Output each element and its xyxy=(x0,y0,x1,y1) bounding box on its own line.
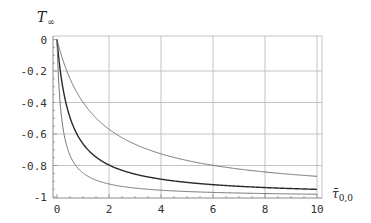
x-tick-label: 10 xyxy=(310,203,323,216)
y-tick-label: -0.8 xyxy=(21,160,48,173)
x-tick-label: 6 xyxy=(210,203,217,216)
x-tick-label: 0 xyxy=(54,203,61,216)
curve-middle xyxy=(57,40,317,190)
y-tick-label: -1 xyxy=(34,191,47,204)
curve-upper xyxy=(57,40,317,177)
data-curves xyxy=(57,40,317,195)
y-axis-label: T∞ xyxy=(37,9,55,27)
chart: 02468100-0.2-0.4-0.6-0.8-1 T∞ τ̄0,0 xyxy=(0,0,371,223)
x-tick-label: 2 xyxy=(106,203,113,216)
x-axis-label: τ̄0,0 xyxy=(332,187,353,203)
x-tick-label: 4 xyxy=(158,203,165,216)
x-tick-label: 8 xyxy=(262,203,269,216)
y-tick-label: -0.6 xyxy=(21,128,48,141)
y-tick-label: -0.4 xyxy=(21,97,48,110)
curve-lower xyxy=(57,40,317,195)
y-tick-label: -0.2 xyxy=(21,65,48,78)
y-tick-label: 0 xyxy=(40,34,47,47)
